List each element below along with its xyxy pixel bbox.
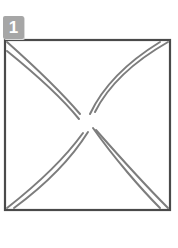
index-badge: 1 <box>3 16 24 39</box>
figure-canvas <box>0 0 178 248</box>
index-badge-label: 1 <box>9 19 18 37</box>
